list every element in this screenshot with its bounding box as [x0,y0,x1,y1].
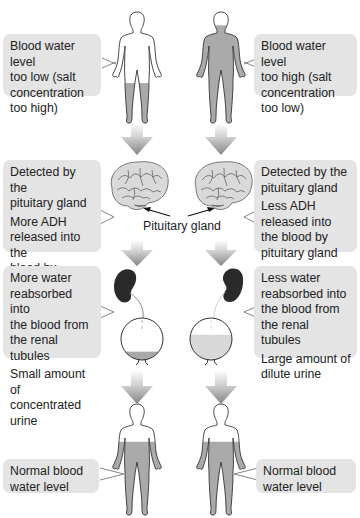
brain-right-icon [195,162,252,210]
right-kidney-line2: Large amount ofdilute urine [261,352,351,383]
right-start-state-box: Blood water leveltoo high (saltconcentra… [254,34,357,96]
arrow-left-1 [121,123,153,155]
figure-right-bottom-icon [191,404,251,517]
right-detection-line1: Detected by thepituitary gland [261,165,351,196]
pituitary-pointer-arrows [143,207,215,216]
left-kidney-line2: Small amount ofconcentrated urine [10,367,95,429]
right-kidney-box: Less waterreabsorbed intothe blood fromt… [254,266,357,358]
blood-water-fill [191,25,251,125]
right-detection-box: Detected by thepituitary gland Less ADHr… [254,160,357,252]
left-detection-box: Detected by thepituitary gland More ADHr… [3,160,101,252]
right-detection-line2: Less ADHreleased intothe blood bypituita… [261,199,351,261]
kidney-left-icon [114,269,143,318]
pituitary-gland-label: Pituitary gland [143,219,221,233]
kidney-right-icon [214,268,243,318]
left-kidney-box: More waterreabsorbed intothe blood fromt… [3,266,101,358]
blood-water-fill [191,442,251,517]
left-start-state-box: Blood water leveltoo low (saltconcentrat… [3,34,101,96]
arrow-right-3 [205,370,237,404]
right-start-state-text: Blood water leveltoo high (saltconcentra… [261,39,351,117]
arrow-left-3 [121,370,153,404]
bladder-right-icon [189,318,233,365]
blood-water-fill [107,442,167,517]
figure-left-bottom-icon [107,404,167,517]
arrow-right-1 [205,123,237,155]
brain-left-icon [111,162,168,210]
right-kidney-line1: Less waterreabsorbed intothe blood fromt… [261,271,351,349]
left-kidney-line1: More waterreabsorbed intothe blood fromt… [10,271,95,364]
left-detection-line1: Detected by thepituitary gland [10,165,95,212]
left-end-state-box: Normal bloodwater level [3,459,99,493]
right-end-state-box: Normal bloodwater level [256,459,356,493]
arrow-right-2 [205,240,237,266]
left-end-state-text: Normal bloodwater level [10,464,93,495]
bladder-left-icon [120,318,164,365]
left-start-state-text: Blood water leveltoo low (saltconcentrat… [10,39,95,117]
figure-left-top-icon [107,12,167,125]
right-end-state-text: Normal bloodwater level [263,464,350,495]
arrow-left-2 [121,240,153,266]
figure-right-top-icon [191,12,251,125]
blood-water-fill [107,83,167,125]
